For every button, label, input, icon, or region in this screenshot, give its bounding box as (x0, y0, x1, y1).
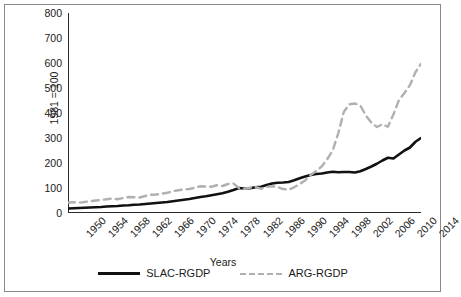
x-tick-label: 2006 (393, 215, 417, 239)
series-line-arg (68, 64, 421, 203)
y-tick-label: 100 (44, 183, 62, 194)
x-tick-label: 1958 (128, 215, 152, 239)
y-tick-label: 500 (44, 83, 62, 94)
x-tick-label: 1974 (216, 215, 240, 239)
x-tick-label: 1998 (349, 215, 373, 239)
y-tick-label: 800 (44, 8, 62, 19)
y-tick-label: 400 (44, 108, 62, 119)
x-tick-label: 1982 (260, 215, 284, 239)
series-lines (68, 13, 421, 213)
x-axis-title: Years (0, 256, 446, 268)
chart-legend: SLAC-RGDP ARG-RGDP (0, 268, 446, 279)
y-tick-label: 700 (44, 33, 62, 44)
x-tick-label: 1970 (194, 215, 218, 239)
plot-area (68, 13, 421, 213)
y-tick-label: 300 (44, 133, 62, 144)
legend-item-arg: ARG-RGDP (240, 268, 347, 279)
x-tick-label: 1962 (150, 215, 174, 239)
y-tick-label: 200 (44, 158, 62, 169)
x-axis-tick-labels: 1950195419581962196619701974197819821986… (68, 215, 421, 255)
legend-label-slac: SLAC-RGDP (146, 268, 210, 279)
x-tick-label: 1954 (106, 215, 130, 239)
x-tick-label: 1994 (327, 215, 351, 239)
y-axis-tick-labels: 0100200300400500600700800 (0, 13, 62, 213)
x-tick-label: 1986 (282, 215, 306, 239)
x-tick-label: 1990 (304, 215, 328, 239)
y-tick-label: 0 (56, 208, 62, 219)
y-tick-label: 600 (44, 58, 62, 69)
legend-swatch-dashed-icon (240, 273, 282, 275)
x-tick-label: 1966 (172, 215, 196, 239)
legend-swatch-solid-icon (98, 272, 140, 275)
x-tick-label: 1978 (238, 215, 262, 239)
x-tick-label: 1950 (84, 215, 108, 239)
legend-label-arg: ARG-RGDP (288, 268, 347, 279)
x-tick-label: 2002 (371, 215, 395, 239)
legend-item-slac: SLAC-RGDP (98, 268, 210, 279)
